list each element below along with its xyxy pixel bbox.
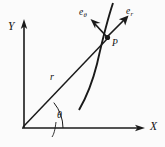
- e-r-vector: [107, 16, 129, 38]
- radial-line-r: [23, 38, 108, 127]
- radius-label: r: [50, 72, 54, 82]
- x-axis-label: X: [150, 121, 157, 133]
- x-axis: [22, 125, 145, 131]
- e-r-subscript: r: [130, 10, 133, 17]
- e-r-label: er: [126, 7, 133, 17]
- e-theta-vector-arrowhead: [91, 19, 101, 28]
- point-p-marker: [105, 35, 110, 40]
- e-theta-label: eθ: [79, 8, 87, 18]
- theta-leader-line: [52, 122, 56, 137]
- point-p-label: P: [112, 39, 118, 49]
- e-theta-subscript: θ: [83, 11, 87, 18]
- angle-theta-label: θ: [57, 110, 62, 120]
- trajectory-curve: [79, 3, 113, 110]
- e-r-vector-shaft: [107, 20, 124, 37]
- diagram-canvas: [0, 0, 165, 147]
- y-axis: [21, 19, 27, 128]
- e-theta-vector: [91, 19, 108, 37]
- polar-coordinate-diagram: Y X P r θ eθ er: [0, 0, 165, 147]
- y-axis-label: Y: [8, 21, 14, 33]
